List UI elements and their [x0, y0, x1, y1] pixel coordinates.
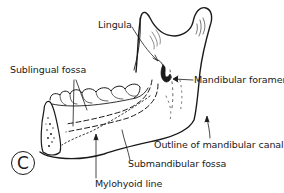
mandibular-foramen-shape: [161, 65, 171, 82]
leader-submandibular: [122, 130, 130, 160]
label-sublingual-fossa: Sublingual fossa: [10, 65, 86, 75]
mandible-outline: [40, 8, 212, 159]
label-lingula: Lingula: [98, 20, 132, 30]
leader-sublingual-b: [76, 80, 87, 110]
leader-sublingual-a: [73, 80, 74, 126]
leader-lingula: [132, 27, 157, 60]
label-mylohyoid-line: Mylohyoid line: [95, 179, 162, 189]
label-outline-mandibular-canal: Outline of mandibular canal: [154, 140, 284, 150]
mandibular-canal-outline: [66, 80, 152, 124]
mandible-diagram: Lingula Sublingual fossa Mandibular fora…: [0, 0, 284, 193]
symphysis-section: [41, 101, 61, 155]
panel-letter-badge: C: [11, 151, 35, 175]
label-mandibular-foramen: Mandibular foramen: [194, 75, 284, 85]
label-submandibular-fossa: Submandibular fossa: [128, 159, 226, 169]
